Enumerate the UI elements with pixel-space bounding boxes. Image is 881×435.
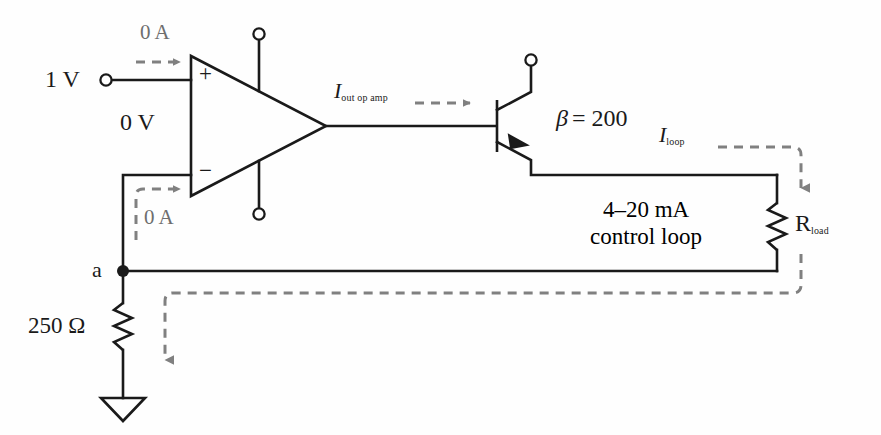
node-a-dot	[117, 265, 129, 277]
ground-icon	[101, 398, 145, 421]
sense-resistor-zigzag	[114, 303, 132, 350]
opamp-plus-input-label: +	[199, 62, 212, 85]
label-load-resistor: Rload	[795, 211, 829, 236]
circuit-schematic-svg	[0, 0, 881, 435]
opamp-minus-input-label: −	[199, 159, 212, 182]
label-opamp-output-current: Iout op amp	[334, 80, 388, 103]
label-virtual-ground: 0 V	[120, 110, 155, 134]
load-resistor-zigzag	[768, 203, 786, 250]
label-source-voltage: 1 V	[45, 67, 80, 91]
control-loop-line2: control loop	[561, 223, 731, 250]
label-sense-resistor: 250 Ω	[28, 314, 85, 337]
label-bias-current-top: 0 A	[140, 22, 170, 43]
input-terminal-circle	[100, 74, 111, 85]
supply-terminal-bottom-circle	[253, 208, 264, 219]
label-bias-current-bottom: 0 A	[144, 207, 174, 228]
beta-symbol: β	[556, 105, 568, 131]
load-resistor-symbol: R	[795, 210, 811, 236]
arrow-loop-current	[718, 147, 801, 188]
supply-terminal-top-circle	[253, 28, 264, 39]
label-loop-current: Iloop	[659, 124, 685, 147]
label-control-loop: 4–20 mA control loop	[561, 196, 731, 250]
collector-terminal-circle	[525, 54, 536, 65]
control-loop-line1: 4–20 mA	[561, 196, 731, 223]
label-beta: β= 200	[556, 106, 628, 130]
circuit-diagram: 1 V 0 A 0 V 0 A + − Iout op amp β= 200 I…	[0, 0, 881, 435]
transistor-emitter-arrowhead	[509, 135, 527, 148]
opamp-output-current-subscript: out op amp	[341, 92, 388, 103]
wire-collector	[497, 66, 531, 110]
beta-value: = 200	[572, 105, 628, 131]
loop-current-subscript: loop	[666, 136, 684, 147]
label-node-a: a	[92, 259, 102, 281]
load-resistor-subscript: load	[811, 225, 829, 236]
